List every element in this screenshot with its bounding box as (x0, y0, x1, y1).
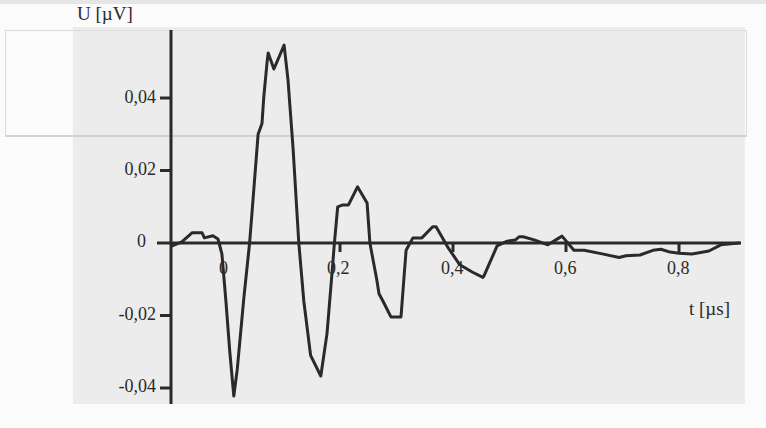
x-tick-label-0: 0 (219, 258, 228, 279)
x-tick-label-0.6: 0,6 (554, 258, 577, 279)
y-tick-label-0.04: 0,04 (76, 87, 156, 108)
x-tick-label-0.4: 0,4 (441, 258, 464, 279)
y-tick-label-0: 0 (66, 231, 146, 252)
signal-curve (172, 45, 739, 396)
y-tick-label-neg-0.02: -0,02 (76, 304, 156, 325)
chart-plot (0, 0, 766, 428)
x-tick-label-0.2: 0,2 (327, 258, 350, 279)
x-axis-title: t [µs] (689, 298, 730, 320)
x-tick-label-0.8: 0,8 (667, 258, 690, 279)
y-tick-label-0.02: 0,02 (76, 159, 156, 180)
y-axis-title: U [µV] (77, 3, 133, 25)
y-tick-label-neg-0.04: -0,04 (76, 376, 156, 397)
